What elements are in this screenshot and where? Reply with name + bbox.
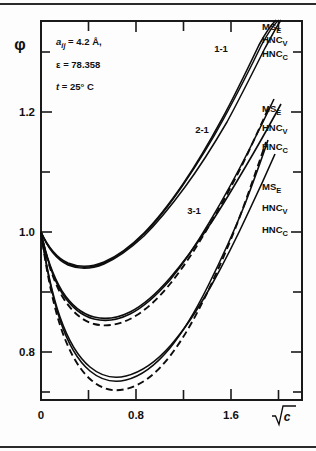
x-tick-label-3: 1.6 [223, 409, 239, 421]
curve-2-1-HNCC [41, 104, 281, 318]
annotation-a-value: = 4.2 Å, [65, 36, 101, 47]
curve-1-1-HNCV [41, 20, 279, 267]
y-tick-label-3: 0.8 [19, 346, 36, 358]
group-label-3-1: 3-1 [187, 205, 201, 216]
curve-label-stack-1-1: MSE HNCV HNCC [262, 21, 289, 62]
annotation-block: aij = 4.2 Å, ε = 78.358 t = 25° C [56, 36, 102, 92]
curve-label-1-1-HNCC: HNCC [262, 48, 289, 62]
curve-label-3-1-HNCV: HNCV [262, 202, 288, 216]
y-tick-label-1: 1.2 [19, 106, 35, 118]
curve-group-1-1 [41, 20, 281, 268]
annotation-line-2: ε = 78.358 [56, 59, 100, 70]
group-label-2-1: 2-1 [195, 124, 209, 135]
x-axis-label: c [272, 406, 296, 425]
curve-label-stack-2-1: MSE HNCV HNCC [262, 103, 289, 155]
curve-label-3-1-MSE: MSE [262, 181, 281, 195]
curve-label-2-1-HNCV: HNCV [262, 122, 288, 136]
y-axis-label: φ [14, 36, 25, 53]
group-label-1-1: 1-1 [214, 43, 228, 54]
y-tick-label-2: 1.0 [19, 226, 35, 238]
curve-label-3-1-HNCC: HNCC [262, 224, 289, 238]
curve-1-1-HNCC [41, 20, 281, 268]
curve-3-1-HNCV [41, 140, 268, 381]
curve-2-1-HNCV [41, 99, 274, 320]
curve-label-stack-3-1: MSE HNCV HNCC [262, 181, 289, 238]
annotation-t-value: = 25° C [59, 81, 94, 92]
curve-group-2-1 [41, 99, 281, 325]
x-tick-label-1: 0 [38, 409, 44, 421]
figure-container: 1.2 1.0 0.8 0 0.8 1.6 φ c aij = 4.2 Å, ε… [0, 0, 316, 451]
chart-svg: 1.2 1.0 0.8 0 0.8 1.6 φ c aij = 4.2 Å, ε… [0, 0, 316, 451]
annotation-line-3: t = 25° C [56, 81, 94, 92]
x-tick-label-2: 0.8 [128, 409, 145, 421]
x-axis-label-base: c [284, 410, 291, 424]
annotation-line-1: aij = 4.2 Å, [56, 36, 102, 50]
curve-label-2-1-HNCC: HNCC [262, 141, 289, 155]
